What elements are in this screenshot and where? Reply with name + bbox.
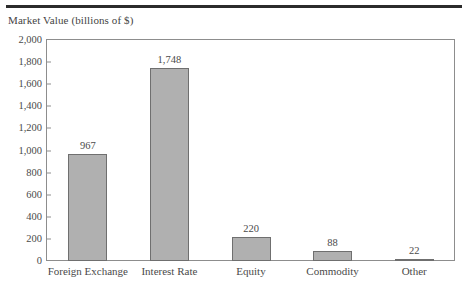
- y-axis-title: Market Value (billions of $): [8, 14, 133, 26]
- y-axis-tick-label: 1,000: [0, 144, 42, 155]
- bar-chart-figure: Market Value (billions of $) 02004006008…: [0, 0, 468, 296]
- y-axis-tick-mark: [46, 172, 51, 173]
- y-axis-tick-label: 1,600: [0, 78, 42, 89]
- bar-interest-rate: [150, 68, 189, 261]
- y-axis-tick-label: 0: [0, 255, 42, 266]
- y-axis-tick-label: 1,800: [0, 56, 42, 67]
- top-rule-divider: [6, 5, 462, 8]
- x-axis-category-label: Interest Rate: [141, 265, 197, 277]
- y-axis-tick-mark: [46, 216, 51, 217]
- y-axis-labels: 02004006008001,0001,2001,4001,6001,8002,…: [0, 39, 42, 261]
- bar-commodity: [313, 251, 352, 261]
- x-axis-category-label: Equity: [236, 265, 265, 277]
- bar-foreign-exchange: [68, 154, 107, 261]
- y-axis-tick-label: 1,400: [0, 100, 42, 111]
- bar-value-label: 22: [409, 245, 420, 256]
- y-axis-tick-mark: [46, 62, 51, 63]
- y-axis-tick-label: 2,000: [0, 34, 42, 45]
- plot-area: 9671,7482208822: [47, 40, 455, 261]
- y-axis-tick-label: 1,200: [0, 122, 42, 133]
- y-axis-tick-label: 200: [0, 232, 42, 243]
- y-axis-tick-mark: [46, 106, 51, 107]
- bar-other: [395, 259, 434, 261]
- y-axis-tick-mark: [46, 150, 51, 151]
- y-axis-tick-label: 600: [0, 188, 42, 199]
- bar-value-label: 88: [327, 237, 338, 248]
- bar-value-label: 1,748: [158, 54, 182, 65]
- bar-value-label: 220: [243, 223, 259, 234]
- x-axis-category-label: Foreign Exchange: [48, 265, 128, 277]
- y-axis-tick-label: 400: [0, 210, 42, 221]
- x-axis-category-label: Commodity: [306, 265, 359, 277]
- bar-equity: [232, 237, 271, 261]
- y-axis-tick-mark: [46, 84, 51, 85]
- bar-value-label: 967: [80, 140, 96, 151]
- x-axis-category-label: Other: [402, 265, 427, 277]
- y-axis-tick-mark: [46, 128, 51, 129]
- y-axis-tick-label: 800: [0, 166, 42, 177]
- y-axis-tick-mark: [46, 238, 51, 239]
- y-axis-tick-mark: [46, 194, 51, 195]
